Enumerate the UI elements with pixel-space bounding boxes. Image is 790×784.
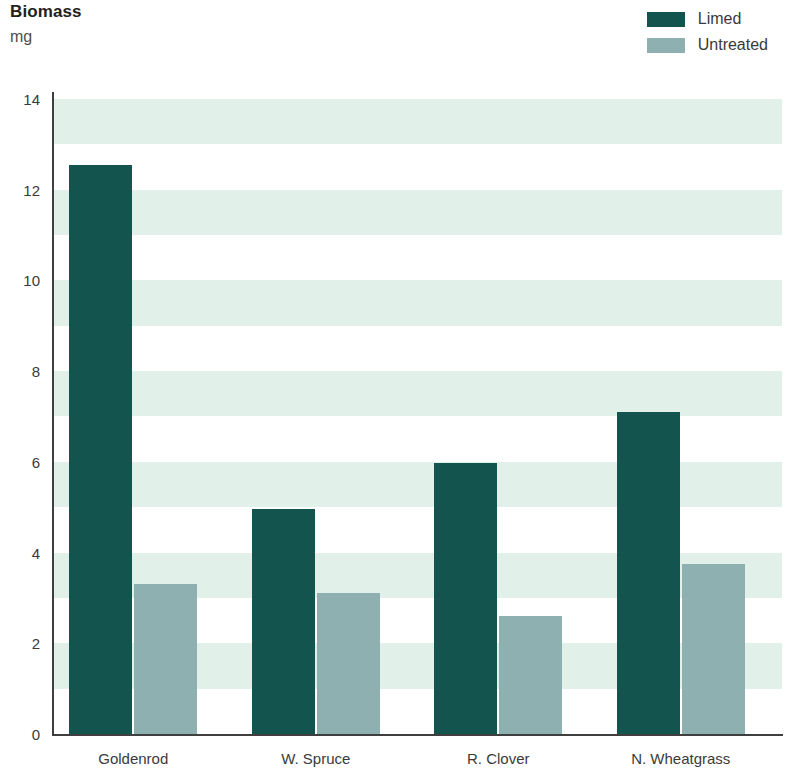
plot-area bbox=[52, 99, 782, 734]
x-axis-line bbox=[52, 734, 783, 736]
bar-r-clover-untreated[interactable] bbox=[499, 616, 562, 734]
chart-legend: Limed Untreated bbox=[647, 6, 768, 58]
biomass-bar-chart: Biomass mg Limed Untreated 02468101214 G… bbox=[0, 0, 790, 784]
x-axis-label-n-wheatgrass: N. Wheatgrass bbox=[631, 750, 730, 767]
y-axis-tick-0: 0 bbox=[0, 727, 40, 742]
grid-band bbox=[52, 371, 782, 416]
bar-n-wheatgrass-untreated[interactable] bbox=[682, 564, 745, 734]
bar-w-spruce-untreated[interactable] bbox=[317, 593, 380, 734]
bar-r-clover-limed[interactable] bbox=[434, 463, 497, 734]
y-axis-tick-labels: 02468101214 bbox=[0, 0, 44, 784]
x-axis-label-r-clover: R. Clover bbox=[467, 750, 530, 767]
bar-w-spruce-limed[interactable] bbox=[252, 509, 315, 734]
legend-item-limed[interactable]: Limed bbox=[647, 6, 768, 32]
y-axis-tick-4: 4 bbox=[0, 545, 40, 560]
y-axis-tick-10: 10 bbox=[0, 273, 40, 288]
bar-goldenrod-limed[interactable] bbox=[69, 165, 132, 734]
y-axis-line bbox=[52, 92, 54, 736]
legend-label-limed: Limed bbox=[698, 10, 742, 28]
legend-label-untreated: Untreated bbox=[698, 36, 768, 54]
y-axis-tick-2: 2 bbox=[0, 636, 40, 651]
x-axis-label-w-spruce: W. Spruce bbox=[281, 750, 350, 767]
x-axis-label-goldenrod: Goldenrod bbox=[98, 750, 168, 767]
grid-band bbox=[52, 99, 782, 144]
grid-band bbox=[52, 190, 782, 235]
y-axis-tick-6: 6 bbox=[0, 454, 40, 469]
grid-band bbox=[52, 280, 782, 325]
bar-goldenrod-untreated[interactable] bbox=[134, 584, 197, 734]
y-axis-tick-14: 14 bbox=[0, 92, 40, 107]
bar-n-wheatgrass-limed[interactable] bbox=[617, 412, 680, 734]
y-axis-tick-12: 12 bbox=[0, 182, 40, 197]
legend-swatch-limed bbox=[647, 12, 685, 27]
legend-item-untreated[interactable]: Untreated bbox=[647, 32, 768, 58]
y-axis-tick-8: 8 bbox=[0, 364, 40, 379]
legend-swatch-untreated bbox=[647, 38, 685, 53]
